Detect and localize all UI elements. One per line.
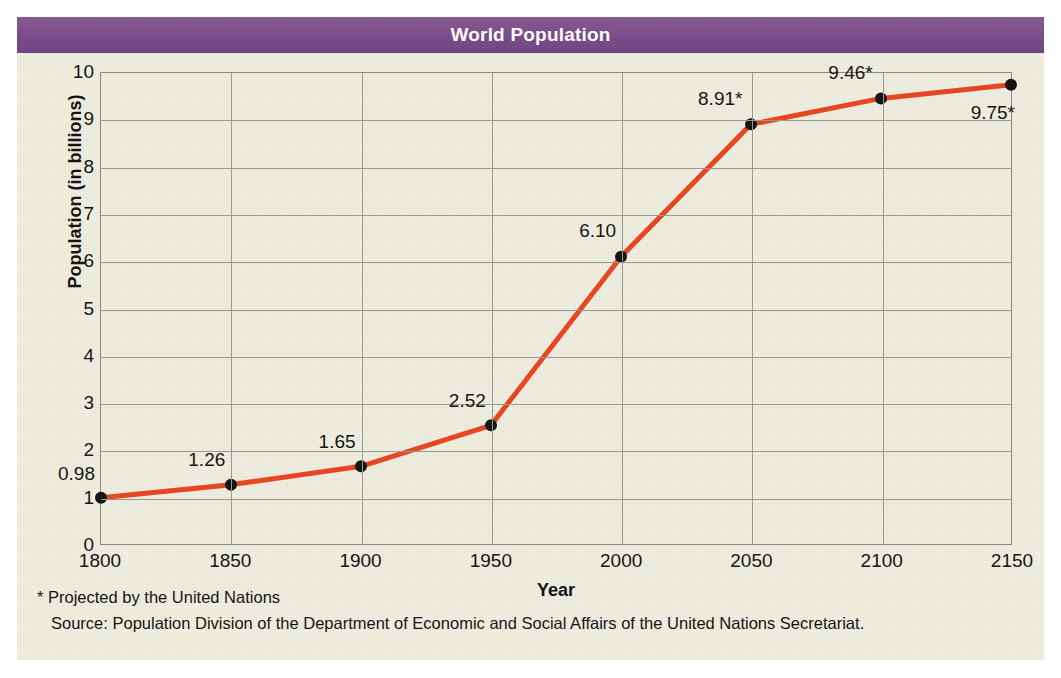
y-tick-label: 4	[54, 345, 94, 367]
chart-title-banner: World Population	[17, 17, 1044, 53]
gridline-vertical	[883, 73, 884, 544]
gridline-vertical	[362, 73, 363, 544]
footnotes: * Projected by the United Nations Source…	[37, 585, 1027, 636]
series-markers	[95, 79, 1017, 504]
gridline-horizontal	[101, 310, 1011, 311]
data-point-label: 1.26	[188, 449, 225, 471]
data-point-marker	[1005, 79, 1017, 91]
gridline-vertical	[231, 73, 232, 544]
gridline-horizontal	[101, 120, 1011, 121]
series-polyline	[101, 85, 1011, 498]
x-tick-label: 2150	[991, 550, 1033, 572]
gridline-horizontal	[101, 357, 1011, 358]
x-tick-label: 1800	[79, 550, 121, 572]
data-point-label: 6.10	[579, 220, 616, 242]
x-tick-label: 1850	[209, 550, 251, 572]
x-tick-label: 2000	[600, 550, 642, 572]
data-point-label: 2.52	[449, 390, 486, 412]
footnote-projection: * Projected by the United Nations	[37, 585, 1027, 611]
gridline-horizontal	[101, 404, 1011, 405]
data-point-marker	[875, 92, 887, 104]
plot-wrapper: Population (in billions) 012345678910 0.…	[17, 53, 1044, 660]
data-point-label: 0.98	[58, 463, 95, 485]
x-tick-label: 1900	[339, 550, 381, 572]
gridline-horizontal	[101, 499, 1011, 500]
plot-area: 0.981.261.652.526.108.91*9.46*9.75*	[100, 72, 1012, 545]
population-line-series	[101, 73, 1011, 544]
x-tick-label: 1950	[470, 550, 512, 572]
gridline-horizontal	[101, 451, 1011, 452]
data-point-label: 8.91*	[698, 88, 742, 110]
y-tick-label: 2	[54, 439, 94, 461]
data-point-marker	[615, 251, 627, 263]
y-tick-label: 9	[54, 108, 94, 130]
gridline-vertical	[622, 73, 623, 544]
gridline-horizontal	[101, 262, 1011, 263]
data-point-label: 9.46*	[828, 62, 872, 84]
footnote-source: Source: Population Division of the Depar…	[37, 611, 1027, 637]
gridline-horizontal	[101, 168, 1011, 169]
y-tick-label: 10	[54, 61, 94, 83]
x-tick-label: 2050	[730, 550, 772, 572]
y-tick-label: 8	[54, 156, 94, 178]
y-tick-label: 5	[54, 298, 94, 320]
gridline-vertical	[492, 73, 493, 544]
y-tick-label: 3	[54, 392, 94, 414]
gridline-vertical	[752, 73, 753, 544]
y-tick-label: 7	[54, 203, 94, 225]
y-tick-label: 6	[54, 250, 94, 272]
chart-figure: World Population Population (in billions…	[17, 17, 1044, 660]
gridline-horizontal	[101, 215, 1011, 216]
data-point-label: 1.65	[319, 431, 356, 453]
x-axis-tick-labels: 18001850190019502000205021002150	[100, 550, 1012, 578]
y-tick-label: 1	[54, 487, 94, 509]
page-title: World Population	[450, 24, 610, 46]
data-point-label: 9.75*	[971, 102, 1015, 124]
x-tick-label: 2100	[861, 550, 903, 572]
